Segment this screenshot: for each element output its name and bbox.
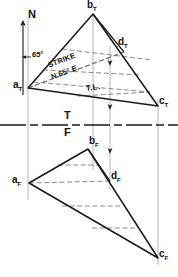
triangle-abc-front (29, 149, 158, 258)
vertex-label-d-front: dF (111, 171, 121, 183)
vertex-c-top-sub: T (165, 102, 169, 108)
front-view-triangle (29, 149, 158, 258)
vertex-label-c-top: cT (159, 96, 168, 108)
vertex-label-a-top: aT (13, 80, 22, 92)
vertex-label-a-front: aF (12, 175, 21, 187)
vertex-d-front-sub: F (117, 177, 121, 183)
angle-label: 65° (32, 51, 43, 59)
vertex-a-top-sub: T (19, 86, 23, 92)
vertex-c-front-sub: F (165, 255, 169, 261)
vertex-b-front-sub: F (95, 142, 99, 148)
vertex-label-b-front: bF (89, 136, 99, 148)
vertex-label-c-front: cF (159, 249, 168, 261)
vertex-d-top-sub: T (124, 43, 128, 49)
vertex-a-front-sub: F (18, 181, 22, 187)
north-label: N (28, 9, 36, 20)
fold-label-front: F (64, 127, 71, 138)
vertex-label-d-top: dT (118, 37, 128, 49)
drawing-canvas: N 65° STRIKE N 65° E T.L. T F aT bT cT d… (0, 0, 178, 277)
front-view-dashed-lines (29, 165, 138, 228)
front-dash-2 (29, 181, 110, 183)
vertex-b-top-sub: T (93, 6, 97, 12)
fold-label-top: T (64, 110, 71, 121)
vertex-label-b-top: bT (87, 0, 97, 12)
